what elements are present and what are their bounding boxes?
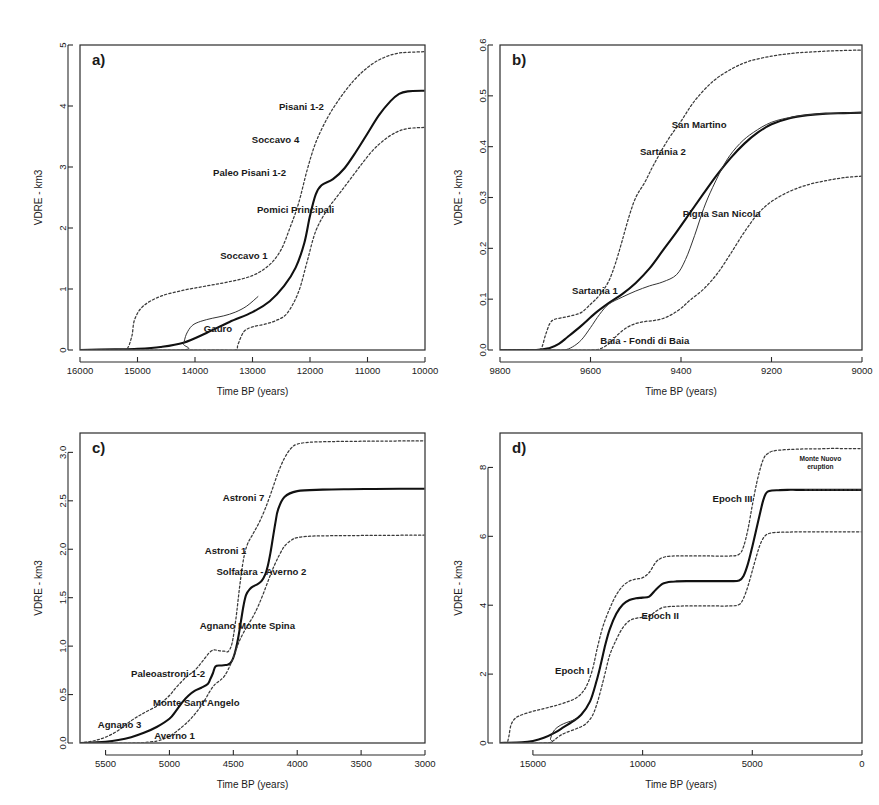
x-tick-label-a-1: 15000 [124,365,150,376]
annotation-a-1: Soccavo 4 [252,134,300,145]
x-tick-label-c-5: 3000 [414,758,435,769]
curve-a-upper-bound [80,52,425,351]
annotation-c-2: Solfatara - Averno 2 [216,566,306,577]
plot-frame-b [500,45,862,350]
y-tick-label-c-3: 1.5 [57,591,68,604]
y-tick-label-c-5: 2.5 [57,494,68,507]
x-tick-label-d-3: 0 [859,758,864,769]
y-tick-label-b-3: 0.3 [477,191,488,204]
x-tick-label-b-3: 9200 [761,365,782,376]
annotation-a-5: Gauro [204,323,232,334]
panel-letter-d: d) [512,439,526,456]
x-tick-label-c-2: 4500 [223,758,244,769]
curve-a-lower-bound [80,127,425,350]
x-tick-label-d-1: 10000 [629,758,655,769]
annotation-a-2: Paleo Pisani 1-2 [213,167,286,178]
annotation-c-3: Agnano Monte Spina [200,620,296,631]
annotation-d-2: Epoch I [555,665,590,676]
y-tick-label-c-0: 0.0 [57,736,68,749]
annotation-d-3-line1: Monte Nuovo [799,455,841,462]
y-tick-label-a-3: 3 [57,164,68,169]
x-tick-label-c-0: 5500 [95,758,116,769]
annotation-b-3: Sartania 1 [572,285,619,296]
y-tick-label-a-2: 2 [57,225,68,230]
y-tick-label-c-1: 0.5 [57,688,68,701]
plot-frame-d [500,433,862,743]
annotation-d-0: Epoch III [713,493,753,504]
curve-a-best-estimate [80,91,425,350]
y-tick-label-d-3: 6 [477,534,488,539]
annotation-b-2: Pigna San Nicola [683,208,762,219]
y-tick-label-a-4: 4 [57,103,68,108]
x-tick-label-b-2: 9400 [670,365,691,376]
y-tick-label-a-5: 5 [57,42,68,47]
panel-letter-c: c) [92,439,105,456]
y-axis-title-b: VDRE - km3 [453,169,464,225]
x-tick-label-d-0: 15000 [520,758,546,769]
panel-letter-a: a) [92,51,105,68]
y-tick-label-c-2: 1.0 [57,640,68,653]
annotation-c-0: Astroni 7 [223,492,265,503]
annotation-d-1: Epoch II [642,610,680,621]
plot-frame-a [80,45,425,350]
x-tick-label-b-1: 9600 [580,365,601,376]
panel-d: 15000100005000002468Time BP (years)VDRE … [440,403,879,805]
y-tick-label-b-5: 0.5 [477,89,488,102]
panel-letter-b: b) [512,51,526,68]
y-tick-label-b-1: 0.1 [477,293,488,306]
panel-a: 1600015000140001300012000110001000001234… [0,0,440,403]
x-tick-label-a-0: 16000 [67,365,93,376]
y-tick-label-c-4: 2.0 [57,543,68,556]
annotation-a-3: Pomici Principali [257,204,334,215]
x-axis-title-c: Time BP (years) [217,779,289,790]
y-tick-label-b-2: 0.2 [477,242,488,255]
x-tick-label-a-2: 14000 [182,365,208,376]
y-axis-title-d: VDRE - km3 [453,560,464,616]
annotation-a-4: Soccavo 1 [220,250,268,261]
annotation-a-0: Pisani 1-2 [279,101,324,112]
x-axis-title-d: Time BP (years) [645,779,717,790]
x-tick-label-a-5: 11000 [355,365,381,376]
x-tick-label-c-3: 4000 [287,758,308,769]
y-tick-label-b-4: 0.4 [477,140,488,153]
y-tick-label-d-0: 0 [477,740,488,745]
y-tick-label-b-6: 0.6 [477,38,488,51]
y-tick-label-d-1: 2 [477,671,488,676]
y-tick-label-c-6: 3.0 [57,446,68,459]
y-tick-label-d-2: 4 [477,603,488,608]
x-tick-label-a-6: 10000 [412,365,438,376]
annotation-b-0: San Martino [672,119,727,130]
y-axis-title-a: VDRE - km3 [33,169,44,225]
x-tick-label-a-4: 12000 [297,365,323,376]
x-axis-title-b: Time BP (years) [645,386,717,397]
y-tick-label-b-0: 0.0 [477,343,488,356]
curves-a [80,52,425,351]
curve-d-best-estimate [500,490,862,743]
annotation-c-5: Monte Sant'Angelo [153,697,240,708]
y-tick-label-a-0: 0 [57,347,68,352]
panel-b: 980096009400920090000.00.10.20.30.40.50.… [440,0,879,403]
curves-b [500,50,862,350]
curve-d-lower-bound [500,532,862,743]
annotation-b-4: Baia - Fondi di Baia [600,335,690,346]
annotation-c-1: Astroni 1 [205,545,247,556]
curve-b-upper-bound [500,50,862,350]
annotation-b-1: Sartania 2 [640,146,686,157]
annotation-c-4: Paleoastroni 1-2 [131,668,205,679]
curve-b-lower-bound [500,176,862,350]
x-tick-label-a-3: 13000 [239,365,265,376]
annotation-c-7: Averno 1 [154,730,195,741]
x-tick-label-b-4: 9000 [851,365,872,376]
curve-c-upper-bound [80,441,425,743]
curves-c [80,441,425,743]
figure-container: 1600015000140001300012000110001000001234… [0,0,879,805]
x-tick-label-c-4: 3500 [351,758,372,769]
x-axis-title-a: Time BP (years) [217,386,289,397]
annotation-d-3-line2: eruption [807,463,833,471]
y-tick-label-d-4: 8 [477,465,488,470]
x-tick-label-b-0: 9800 [489,365,510,376]
panel-c: 5500500045004000350030000.00.51.01.52.02… [0,403,440,805]
annotation-c-6: Agnano 3 [98,719,142,730]
x-tick-label-c-1: 5000 [159,758,180,769]
y-axis-title-c: VDRE - km3 [33,560,44,616]
